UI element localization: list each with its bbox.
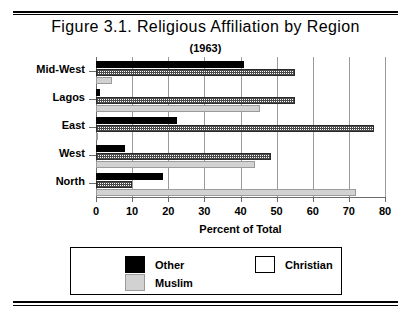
y-tick — [89, 183, 96, 184]
bar-other — [96, 173, 163, 180]
x-tick-label: 10 — [117, 205, 147, 217]
category-label: West — [0, 147, 85, 159]
bar-other — [96, 117, 177, 124]
legend-entry-muslim[interactable]: Muslim — [125, 274, 193, 291]
bar-christian — [96, 69, 295, 76]
legend-swatch-other-icon — [125, 256, 145, 273]
x-tick — [349, 197, 350, 202]
x-tick-label: 30 — [189, 205, 219, 217]
bar-group: Mid-West — [96, 57, 385, 85]
x-tick — [132, 197, 133, 202]
category-label: North — [0, 175, 85, 187]
category-label: Mid-West — [0, 63, 85, 75]
x-axis-title: Percent of Total — [96, 223, 385, 235]
x-tick-label: 40 — [226, 205, 256, 217]
bar-group: Lagos — [96, 85, 385, 113]
x-tick-label: 50 — [262, 205, 292, 217]
legend-entry-christian[interactable]: Christian — [255, 256, 333, 273]
figure-container: Figure 3.1. Religious Affiliation by Reg… — [0, 0, 411, 316]
category-label: East — [0, 119, 85, 131]
top-rule — [13, 11, 398, 15]
legend-swatch-muslim-icon — [125, 274, 145, 291]
x-tick-label: 0 — [81, 205, 111, 217]
y-tick — [89, 155, 96, 156]
x-tick — [96, 197, 97, 202]
bar-group: East — [96, 113, 385, 141]
legend-entry-other[interactable]: Other — [125, 256, 184, 273]
bar-muslim — [96, 77, 112, 84]
y-tick — [89, 127, 96, 128]
x-tick-label: 20 — [153, 205, 183, 217]
bar-other — [96, 89, 100, 96]
bar-christian — [96, 125, 374, 132]
x-tick — [204, 197, 205, 202]
bar-other — [96, 145, 125, 152]
bar-muslim — [96, 133, 98, 140]
legend-box: OtherChristianMuslim — [70, 247, 342, 295]
x-tick — [385, 197, 386, 202]
figure-title: Figure 3.1. Religious Affiliation by Reg… — [0, 18, 411, 36]
bar-group: North — [96, 169, 385, 197]
bar-group: West — [96, 141, 385, 169]
legend-label: Other — [155, 259, 184, 271]
x-tick — [168, 197, 169, 202]
bar-muslim — [96, 189, 356, 196]
bar-christian — [96, 153, 271, 160]
legend-label: Muslim — [155, 277, 193, 289]
x-tick-label: 80 — [370, 205, 400, 217]
gridline — [385, 57, 386, 197]
figure-subtitle: (1963) — [0, 42, 411, 54]
legend-label: Christian — [285, 259, 333, 271]
bar-muslim — [96, 161, 255, 168]
y-tick — [89, 71, 96, 72]
plot-area: 01020304050607080 Mid-WestLagosEastWestN… — [96, 57, 385, 197]
x-tick — [313, 197, 314, 202]
x-tick-label: 60 — [298, 205, 328, 217]
legend-swatch-christian-icon — [255, 256, 275, 273]
y-tick — [89, 99, 96, 100]
x-tick — [277, 197, 278, 202]
bar-christian — [96, 181, 132, 188]
x-tick-label: 70 — [334, 205, 364, 217]
bottom-rule — [13, 301, 398, 306]
bar-other — [96, 61, 244, 68]
x-tick — [241, 197, 242, 202]
category-label: Lagos — [0, 91, 85, 103]
bar-muslim — [96, 105, 260, 112]
bar-christian — [96, 97, 295, 104]
